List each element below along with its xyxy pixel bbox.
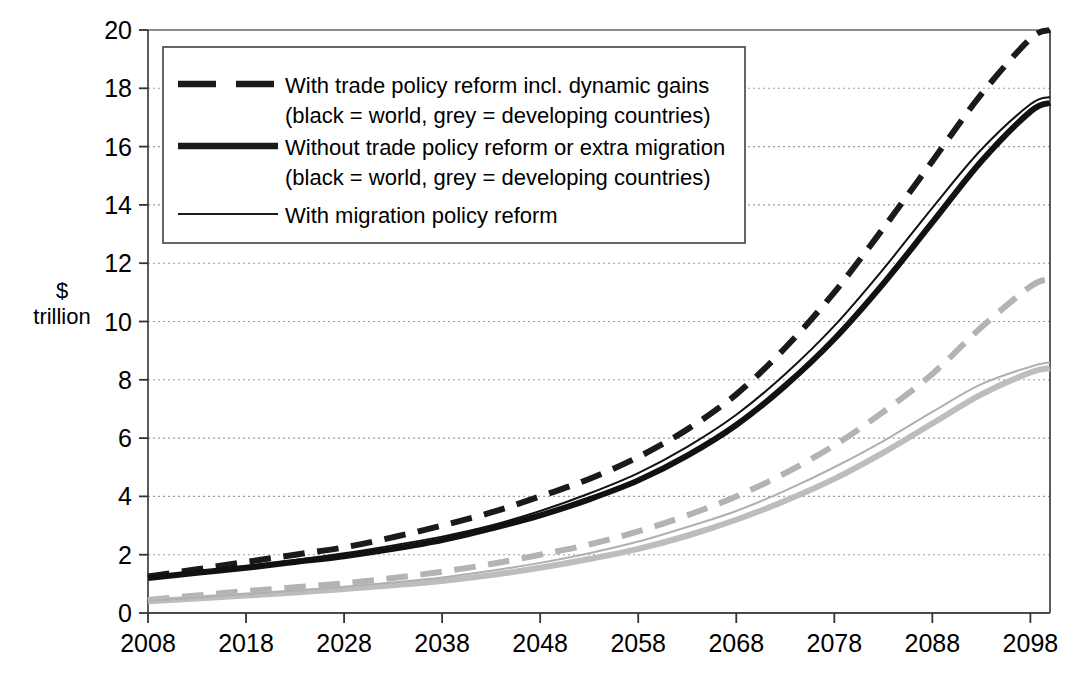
chart-legend: With trade policy reform incl. dynamic g… xyxy=(163,47,745,243)
x-tick-label-2098: 2098 xyxy=(1003,629,1059,657)
y-tick-label-0: 0 xyxy=(118,599,132,627)
legend-entry-trade-reform-label-line-2: (black = world, grey = developing countr… xyxy=(285,103,711,128)
x-tick-label-2018: 2018 xyxy=(218,629,274,657)
x-tick-label-2088: 2088 xyxy=(905,629,961,657)
y-tick-label-16: 16 xyxy=(104,133,132,161)
y-tick-label-18: 18 xyxy=(104,74,132,102)
chart-figure: 0246810121416182020082018202820382048205… xyxy=(0,0,1075,675)
x-tick-label-2008: 2008 xyxy=(120,629,176,657)
y-tick-label-20: 20 xyxy=(104,16,132,44)
y-tick-label-6: 6 xyxy=(118,424,132,452)
x-tick-label-2078: 2078 xyxy=(806,629,862,657)
legend-entry-no-reform-label-line-1: Without trade policy reform or extra mig… xyxy=(285,135,725,160)
x-tick-label-2058: 2058 xyxy=(610,629,666,657)
legend-entry-migration-reform-label-line-1: With migration policy reform xyxy=(285,203,558,228)
x-tick-label-2038: 2038 xyxy=(414,629,470,657)
legend-entry-trade-reform-label-line-1: With trade policy reform incl. dynamic g… xyxy=(285,73,709,98)
y-tick-label-8: 8 xyxy=(118,366,132,394)
x-tick-label-2068: 2068 xyxy=(708,629,764,657)
y-axis-title-line-2: trillion xyxy=(33,304,90,329)
x-tick-label-2048: 2048 xyxy=(512,629,568,657)
x-tick-label-2028: 2028 xyxy=(316,629,372,657)
y-tick-label-12: 12 xyxy=(104,249,132,277)
y-tick-label-4: 4 xyxy=(118,482,132,510)
y-tick-label-10: 10 xyxy=(104,308,132,336)
legend-entry-no-reform-label-line-2: (black = world, grey = developing countr… xyxy=(285,165,711,190)
y-tick-label-2: 2 xyxy=(118,541,132,569)
y-tick-label-14: 14 xyxy=(104,191,132,219)
line-chart: 0246810121416182020082018202820382048205… xyxy=(0,0,1075,675)
y-axis-title-line-1: $ xyxy=(56,278,68,303)
